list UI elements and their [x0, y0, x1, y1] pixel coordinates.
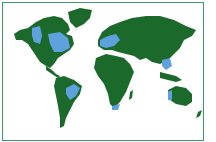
island-madagascar: [129, 90, 133, 100]
continent-africa: [94, 54, 134, 108]
island-new-zealand: [196, 110, 202, 118]
continent-central-america: [46, 66, 60, 78]
continent-south-america: [54, 76, 82, 128]
landmass-greenland: [68, 8, 92, 28]
world-map: [0, 0, 216, 142]
highlight-eastern-china: [162, 58, 172, 70]
islands-southeast-asia: [160, 72, 182, 82]
